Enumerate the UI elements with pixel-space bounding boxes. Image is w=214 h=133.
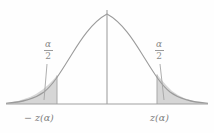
normal-distribution-figure: α 2 α 2 − z(α) z(α) [0, 0, 214, 133]
distribution-plot [0, 0, 214, 133]
right-tail-shaded-region [157, 75, 208, 105]
left-tail-shaded-region [6, 76, 57, 105]
